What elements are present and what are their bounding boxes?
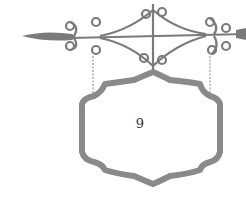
spear-tip [22,32,76,40]
wrought-iron-bracket [66,4,246,72]
sign-number: 9 [130,116,150,131]
hanging-sign-illustration [0,0,246,198]
sign-frame [82,72,220,184]
